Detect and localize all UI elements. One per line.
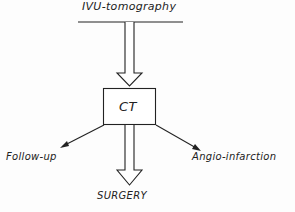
ct-label: CT (119, 99, 137, 114)
flowchart: IVU-tomography CT Follow-up Angio-infarc… (0, 0, 295, 212)
follow-up-label: Follow-up (6, 151, 57, 162)
diagram-graphics (0, 0, 295, 212)
top-label: IVU-tomography (82, 0, 176, 13)
surgery-label: SURGERY (97, 190, 147, 201)
arrow-to-follow-up (63, 125, 104, 146)
arrowhead-left-icon (60, 141, 69, 148)
arrow-to-angio-infarction (156, 125, 198, 149)
arrowhead-right-icon (192, 144, 201, 151)
angio-infarction-label: Angio-infarction (192, 151, 276, 162)
hollow-arrow-bottom-icon (117, 125, 142, 185)
hollow-arrow-top-icon (117, 22, 142, 86)
